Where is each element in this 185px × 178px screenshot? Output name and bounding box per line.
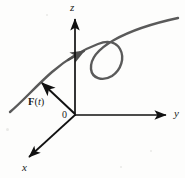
figure-container: z y x 0 F(t) xyxy=(0,0,185,178)
x-axis-line xyxy=(29,115,75,157)
y-axis-label: y xyxy=(174,108,179,119)
curve-direction-arrow-icon xyxy=(68,51,84,60)
vector-F-of-t-label: F(t) xyxy=(28,97,44,108)
origin-label: 0 xyxy=(62,110,67,120)
x-axis-label: x xyxy=(22,162,27,173)
coordinate-axes-group xyxy=(29,19,166,157)
vector-F-of-t-line xyxy=(42,83,75,114)
z-axis-label: z xyxy=(70,2,74,13)
vector-function-diagram xyxy=(0,0,185,178)
vector-label-close-paren: ) xyxy=(41,96,45,107)
position-vector-group xyxy=(42,83,75,114)
